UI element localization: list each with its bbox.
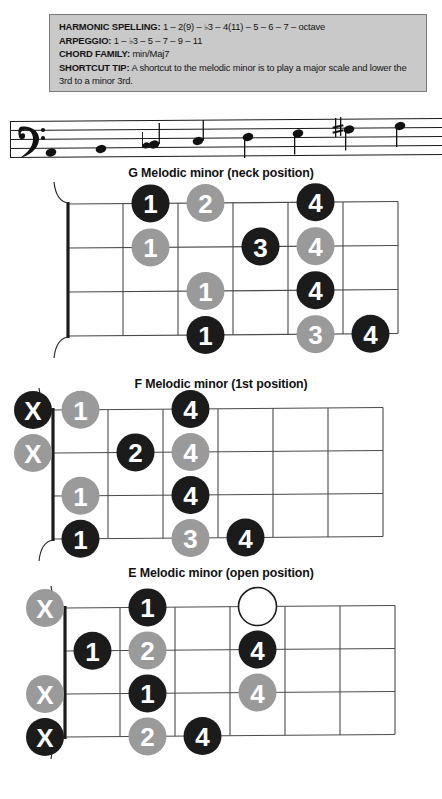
info-label-arpeggio: ARPEGGIO:	[59, 35, 111, 46]
fret-dot-s3-f1: 1	[62, 477, 100, 515]
fret-dot-s2-f5: 4	[297, 227, 335, 265]
bass-clef-icon	[18, 127, 45, 158]
fret-dot-s1-f1: 1	[62, 391, 100, 429]
svg-text:3: 3	[183, 524, 197, 554]
mute-marker-s3: X	[26, 675, 64, 713]
svg-text:3: 3	[253, 233, 267, 263]
mute-marker-s4: X	[26, 718, 64, 756]
fret-dot-s3-f2: 1	[129, 674, 167, 712]
info-value-arpeggio: 1 – ♭3 – 5 – 7 – 9 – 11	[111, 35, 202, 46]
neck-curve-bottom	[39, 540, 53, 561]
fret-dot-s2-f1: 1	[74, 632, 112, 670]
note-2	[95, 144, 108, 155]
svg-text:4: 4	[308, 232, 323, 262]
svg-text:4: 4	[183, 481, 198, 511]
fret-dot-s4-f3: 4	[184, 717, 222, 755]
info-box: HARMONIC SPELLING: 1 – 2(9) – ♭3 – 4(11)…	[49, 14, 427, 92]
fretboard-e-melodic-minor: 11241424XXX	[0, 586, 442, 791]
fret-dot-s2-f2: 2	[129, 631, 167, 669]
svg-text:1: 1	[143, 233, 157, 263]
svg-text:1: 1	[73, 396, 87, 426]
mute-marker-s2: X	[14, 434, 52, 472]
note-1	[45, 147, 58, 158]
fret-dot-s2-f2: 2	[117, 433, 155, 471]
fret-dot-s4-f4: 4	[227, 519, 265, 557]
info-line-shortcut-tip: SHORTCUT TIP: A shortcut to the melodic …	[59, 61, 419, 88]
svg-text:1: 1	[73, 525, 87, 555]
fret-dot-s4-f6: 4	[352, 315, 390, 353]
fret-dot-s1-f3: 4	[172, 390, 210, 428]
svg-text:4: 4	[183, 395, 198, 425]
svg-text:X: X	[24, 396, 42, 426]
neck-curve-bottom	[54, 337, 68, 358]
fret-dot-s4-f1: 1	[62, 520, 100, 558]
fret-dot-s3-f4: 4	[239, 674, 277, 712]
fret-dot-s2-f3: 4	[172, 433, 210, 471]
note-3	[142, 123, 160, 150]
diagram-title-e: E Melodic minor (open position)	[0, 566, 442, 580]
fret-dot-s3-f5: 4	[297, 271, 335, 309]
note-8	[394, 121, 407, 147]
info-line-chord-family: CHORD FAMILY: min/Maj7	[59, 47, 419, 61]
svg-text:2: 2	[140, 722, 154, 752]
diagram-title-f: F Melodic minor (1st position)	[0, 377, 442, 391]
svg-text:4: 4	[250, 679, 265, 709]
fret-dot-s2-f4: 4	[239, 631, 277, 669]
fret-dot-s1-f2: 1	[129, 588, 167, 626]
svg-text:4: 4	[183, 438, 198, 468]
fret-dot-s2-f4: 3	[242, 228, 280, 266]
svg-text:3: 3	[308, 320, 322, 350]
note-4	[192, 120, 205, 146]
fret-dot-s3-f3: 1	[187, 272, 225, 310]
fretboard-grid	[68, 202, 398, 337]
music-staff	[0, 108, 442, 170]
info-label-harmonic-spelling: HARMONIC SPELLING:	[59, 21, 160, 32]
svg-text:2: 2	[128, 438, 142, 468]
info-label-shortcut-tip: SHORTCUT TIP:	[59, 62, 129, 73]
fret-dot-s1-f2: 1	[132, 184, 170, 222]
fret-dot-s4-f3: 3	[172, 519, 210, 557]
svg-text:2: 2	[140, 636, 154, 666]
fretboard-grid	[53, 408, 383, 540]
svg-text:2: 2	[198, 189, 212, 219]
svg-text:X: X	[36, 594, 54, 624]
info-line-harmonic-spelling: HARMONIC SPELLING: 1 – 2(9) – ♭3 – 4(11)…	[59, 20, 419, 34]
svg-text:1: 1	[198, 277, 212, 307]
fret-dot-s1-f3: 2	[187, 184, 225, 222]
svg-text:1: 1	[85, 637, 99, 667]
svg-text:1: 1	[140, 679, 154, 709]
fret-dot-s2-f2: 1	[132, 228, 170, 266]
fret-dot-s4-f2: 2	[129, 717, 167, 755]
staff-lines	[10, 119, 442, 159]
info-label-chord-family: CHORD FAMILY:	[59, 48, 130, 59]
sharp-icon	[332, 117, 343, 137]
info-line-arpeggio: ARPEGGIO: 1 – ♭3 – 5 – 7 – 9 – 11	[59, 34, 419, 48]
mute-marker-s1: X	[14, 391, 52, 429]
svg-text:4: 4	[238, 524, 253, 554]
fretboard-f-melodic-minor: 142414134XX	[0, 396, 442, 558]
info-value-harmonic-spelling: 1 – 2(9) – ♭3 – 4(11) – 5 – 6 – 7 – octa…	[160, 21, 325, 32]
fret-dot-s1-f5: 4	[297, 183, 335, 221]
fret-dot-s3-f3: 4	[172, 476, 210, 514]
svg-text:4: 4	[308, 276, 323, 306]
mute-marker-s1: X	[26, 589, 64, 627]
svg-text:1: 1	[73, 482, 87, 512]
svg-text:4: 4	[308, 188, 323, 218]
fret-dot-s4-f5: 3	[297, 315, 335, 353]
svg-text:1: 1	[198, 321, 212, 351]
diagram-title-g: G Melodic minor (neck position)	[0, 166, 442, 180]
svg-text:4: 4	[195, 722, 210, 752]
fret-dot-s4-f3: 1	[187, 316, 225, 354]
fretboard-grid	[65, 606, 395, 738]
fret-dot-s1-f4	[239, 588, 277, 626]
note-5	[242, 132, 255, 158]
note-7	[332, 117, 355, 151]
info-value-chord-family: min/Maj7	[130, 48, 169, 59]
svg-text:1: 1	[140, 593, 154, 623]
svg-text:X: X	[36, 680, 54, 710]
neck-curve-top	[54, 182, 68, 203]
note-6	[292, 128, 305, 154]
svg-text:1: 1	[143, 189, 157, 219]
svg-text:4: 4	[363, 320, 378, 350]
svg-text:X: X	[24, 439, 42, 469]
